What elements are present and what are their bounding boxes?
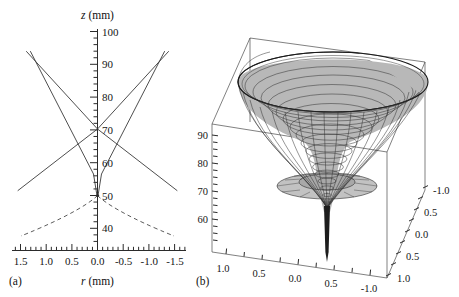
cusp-point-marker <box>96 194 99 197</box>
z-tick-label-60: 60 <box>102 157 114 169</box>
panel-a-plot: 100 90 80 70 60 50 40 1.5 1.0 0.5 0.0 -0… <box>0 0 200 297</box>
r-tick-label-neg0p5: -0.5 <box>115 255 133 267</box>
panel-b-label: (b) <box>196 275 210 288</box>
z3d-tick-label-70: 70 <box>198 186 209 197</box>
x3d-tick-label-neg0p5: 0.5 <box>324 278 337 289</box>
y3d-tick-label-neg1p0: -1.0 <box>433 185 450 196</box>
panel-a-label: (a) <box>9 275 22 288</box>
ray-outer-left <box>27 52 178 191</box>
figure-container: 100 90 80 70 60 50 40 1.5 1.0 0.5 0.0 -0… <box>0 0 459 297</box>
r-tick-label-neg1p0: -1.0 <box>141 255 159 267</box>
panel-b-plot: 90 80 70 60 1.0 0.5 <box>190 0 459 297</box>
surface-spike <box>324 206 330 262</box>
z3d-tick-label-80: 80 <box>198 158 209 169</box>
z-tick-label-40: 40 <box>102 222 114 234</box>
ray-outer-right <box>18 52 169 191</box>
y3d-tick-label-0p0: 0.0 <box>415 229 428 240</box>
r-axis-title: r (mm) <box>81 275 114 288</box>
x3d-tick-label-neg1p0: -1.0 <box>361 283 378 294</box>
x-axis-3d: 1.0 0.5 0.0 0.5 -1.0 <box>216 249 377 295</box>
z-axis-3d: 90 80 70 60 <box>198 130 219 241</box>
z-tick-label-50: 50 <box>102 190 114 202</box>
y3d-tick-label-0p5a: 0.5 <box>424 207 437 218</box>
r-tick-label-0p0: 0.0 <box>91 255 105 267</box>
panel-a: 100 90 80 70 60 50 40 1.5 1.0 0.5 0.0 -0… <box>0 0 200 297</box>
caustic-surface <box>238 52 428 262</box>
r-tick-label-neg1p5: -1.5 <box>166 255 184 267</box>
r-tick-label-1p5: 1.5 <box>14 255 28 267</box>
x3d-tick-label-0p0: 0.0 <box>288 273 301 284</box>
r-tick-label-1p0: 1.0 <box>39 255 53 267</box>
x3d-tick-label-1p0: 1.0 <box>216 263 229 274</box>
z3d-tick-label-60: 60 <box>198 214 209 225</box>
r-axis-major-ticks <box>21 244 175 251</box>
y-axis-3d: -1.0 0.5 0.0 0.5 1.0 <box>386 185 450 284</box>
z-axis-title: z (mm) <box>80 9 114 22</box>
z-tick-label-100: 100 <box>102 26 119 38</box>
z3d-tick-label-90: 90 <box>198 130 209 141</box>
r-tick-label-0p5: 0.5 <box>65 255 79 267</box>
r-axis-minor-ticks <box>15 247 185 251</box>
y3d-tick-label-0p5b: 0.5 <box>406 251 419 262</box>
z-tick-label-80: 80 <box>102 91 114 103</box>
x3d-tick-label-0p5: 0.5 <box>252 268 265 279</box>
z-tick-label-90: 90 <box>102 58 114 70</box>
z-axis-minor-ticks <box>94 38 98 241</box>
z-tick-label-70: 70 <box>102 124 114 136</box>
panel-b: 90 80 70 60 1.0 0.5 <box>190 0 459 297</box>
caustic-branch-left <box>21 196 98 237</box>
y3d-tick-label-1p0: 1.0 <box>397 273 410 284</box>
